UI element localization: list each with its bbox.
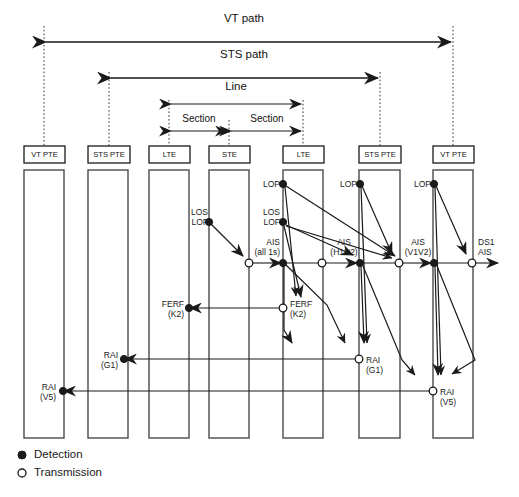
dot-lop-col5 <box>279 180 286 187</box>
equipment-label-col1: VT PTE <box>24 150 65 159</box>
figure-canvas: VT path STS path Line Section Section VT… <box>0 0 519 497</box>
dot-ais-all1s <box>279 259 286 266</box>
line-label: Line <box>196 80 276 92</box>
annotation-rai-g1-det-line2: (G1) <box>90 361 118 371</box>
annotation-ferf-k2-tx-line2: (K2) <box>290 310 324 320</box>
annotation-lop-col5: LOP <box>256 180 280 190</box>
legend-transmission-label: Transmission <box>34 466 102 478</box>
dot-rai-g1-det <box>120 355 127 362</box>
dot-lop-col6 <box>356 180 363 187</box>
circle-tx-ais-h1h2 <box>318 259 326 267</box>
annotation-lop-col7: LOP <box>407 180 431 190</box>
equipment-label-col2: STS PTE <box>88 150 130 159</box>
annotation-ds1-ais-line2: AIS <box>478 248 514 258</box>
annotation-ais-h1h2-line2: (H1H2) <box>326 248 362 258</box>
circle-tx-ferf-k2 <box>279 304 287 312</box>
equipment-label-col4: STE <box>209 150 250 159</box>
circle-tx-ais-v1v2 <box>395 259 403 267</box>
annotation-rai-v5-det-line2: (V5) <box>28 393 56 403</box>
sts-path-label: STS path <box>184 48 304 60</box>
dot-ais-h1h2 <box>356 259 363 266</box>
equipment-label-col5: LTE <box>283 150 324 159</box>
annotation-los-lof-col5-line2: LOF <box>254 218 280 228</box>
legend-markers <box>18 451 26 477</box>
dot-rai-v5-det <box>59 387 66 394</box>
equipment-label-col3: LTE <box>149 150 190 159</box>
dot-los-lof-col5 <box>279 218 286 225</box>
legend-detection-marker <box>18 451 26 459</box>
annotation-ais-v1v2-line2: (V1V2) <box>400 248 436 258</box>
dot-lop-col7 <box>430 180 437 187</box>
annotation-lop-col6: LOP <box>333 180 357 190</box>
vt-path-label: VT path <box>184 12 304 24</box>
circle-tx-ds1-ais <box>468 259 476 267</box>
equipment-columns <box>24 170 473 438</box>
legend-detection-label: Detection <box>34 448 83 460</box>
legend-transmission-marker <box>18 469 26 477</box>
circle-tx-col4 <box>245 259 253 267</box>
section-right-label: Section <box>232 113 302 124</box>
annotation-rai-g1-tx-line2: (G1) <box>366 366 394 376</box>
annotation-ferf-k2-det-line2: (K2) <box>152 310 184 320</box>
circle-tx-rai-v5 <box>429 387 437 395</box>
equipment-label-col7: VT PTE <box>433 150 474 159</box>
circle-tx-rai-g1 <box>355 355 363 363</box>
annotation-rai-v5-tx-line2: (V5) <box>440 398 468 408</box>
section-left-label: Section <box>164 113 234 124</box>
dot-ais-v1v2-det <box>430 259 437 266</box>
annotation-ais-all1s-line2: (all 1s) <box>240 248 280 258</box>
equipment-label-col6: STS PTE <box>359 150 401 159</box>
annotation-los-lof-col4-line2: LOF <box>182 218 208 228</box>
dot-ferf-k2-det <box>185 304 192 311</box>
